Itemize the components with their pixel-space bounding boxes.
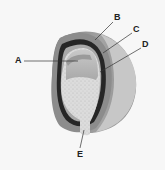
label-d: D [142, 40, 149, 49]
seed-diagram: A B C D E [0, 0, 165, 170]
label-c: C [133, 25, 140, 34]
label-b: B [114, 13, 121, 22]
label-a: A [15, 56, 22, 65]
label-e: E [77, 150, 83, 159]
cavity-a [66, 50, 98, 81]
seed-illustration [0, 0, 165, 170]
